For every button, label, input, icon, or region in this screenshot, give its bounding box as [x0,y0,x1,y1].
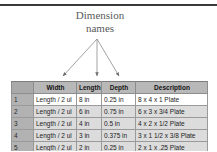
cell-description[interactable]: 6 x 3 x 3/4 Plate [136,106,208,118]
annotation-label-dimension-names: Dimension names [42,9,158,34]
row-number-cell[interactable]: 5 [12,142,34,152]
cell-width[interactable]: Length / 2 ul [34,94,77,106]
cell-depth[interactable]: 0.25 in [102,94,136,106]
cell-depth[interactable]: 0.5 in [102,118,136,130]
top-divider-rule [0,4,217,6]
cell-description[interactable]: 4 x 2 x 1/2 Plate [136,118,208,130]
row-number-cell[interactable]: 3 [12,118,34,130]
table-header-row: Width Length Depth Description [12,82,208,94]
row-number-cell[interactable]: 1 [12,94,34,106]
cell-depth[interactable]: 0.75 in [102,106,136,118]
cell-depth[interactable]: 0.25 in [102,142,136,152]
cell-description[interactable]: 2 x 1 x .25 Plate [136,142,208,152]
column-header-width[interactable]: Width [34,82,77,94]
table-row[interactable]: 5 Length / 2 ul 2 in 0.25 in 2 x 1 x .25… [12,142,208,152]
cell-width[interactable]: Length / 2 ul [34,142,77,152]
cell-width[interactable]: Length / 2 ul [34,118,77,130]
cell-width[interactable]: Length / 2 ul [34,106,77,118]
table-row[interactable]: 3 Length / 2 ul 4 in 0.5 in 4 x 2 x 1/2 … [12,118,208,130]
table-body: 1 Length / 2 ul 8 in 0.25 in 8 x 4 x 1 P… [12,94,208,152]
cell-description[interactable]: 8 x 4 x 1 Plate [136,94,208,106]
arrow-to-width [63,39,97,76]
table-row[interactable]: 2 Length / 2 ul 6 in 0.75 in 6 x 3 x 3/4… [12,106,208,118]
cell-length[interactable]: 6 in [77,106,102,118]
column-header-corner[interactable] [12,82,34,94]
column-header-description[interactable]: Description [136,82,208,94]
cell-length[interactable]: 8 in [77,94,102,106]
table-row[interactable]: 1 Length / 2 ul 8 in 0.25 in 8 x 4 x 1 P… [12,94,208,106]
cell-length[interactable]: 4 in [77,118,102,130]
cell-length[interactable]: 2 in [77,142,102,152]
figure-container: Dimension names Width Length Depth [0,0,217,151]
cell-depth[interactable]: 0.375 in [102,130,136,142]
row-number-cell[interactable]: 2 [12,106,34,118]
table-row[interactable]: 4 Length / 2 ul 3 in 0.375 in 3 x 1 1/2 … [12,130,208,142]
dimensions-table[interactable]: Width Length Depth Description 1 Length … [11,81,208,151]
cell-description[interactable]: 3 x 1 1/2 x 3/8 Plate [136,130,208,142]
cell-length[interactable]: 3 in [77,130,102,142]
cell-width[interactable]: Length / 2 ul [34,130,77,142]
row-number-cell[interactable]: 4 [12,130,34,142]
arrow-to-depth [97,39,119,76]
column-header-length[interactable]: Length [77,82,102,94]
column-header-depth[interactable]: Depth [102,82,136,94]
